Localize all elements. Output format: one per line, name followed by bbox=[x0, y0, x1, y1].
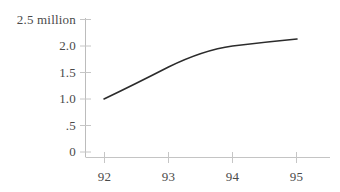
line-chart: 2.5 million 2.0 1.5 1.0 .5 0 92 93 94 95 bbox=[0, 0, 340, 192]
x-axis-label-92: 92 bbox=[86, 170, 123, 183]
data-line-series-1 bbox=[104, 39, 297, 99]
x-axis-label-95: 95 bbox=[278, 170, 315, 183]
x-axis-label-94: 94 bbox=[214, 170, 251, 183]
y-axis-label-2-5: 2.5 million bbox=[6, 13, 76, 26]
y-axis-label-2-0: 2.0 bbox=[6, 39, 76, 52]
x-axis-label-93: 93 bbox=[150, 170, 187, 183]
y-axis-label-1-5: 1.5 bbox=[6, 66, 76, 79]
y-axis-label-0: 0 bbox=[6, 145, 76, 158]
y-axis-label-1-0: 1.0 bbox=[6, 92, 76, 105]
y-axis-label-0-5: .5 bbox=[6, 119, 76, 132]
